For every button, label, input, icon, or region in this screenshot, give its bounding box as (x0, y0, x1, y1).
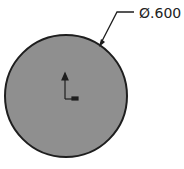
drawing-canvas: Ø.600 (0, 0, 184, 169)
diameter-dimension-label[interactable]: Ø.600 (139, 5, 181, 21)
circle-sketch[interactable] (5, 35, 127, 157)
diameter-leader[interactable] (100, 12, 134, 45)
